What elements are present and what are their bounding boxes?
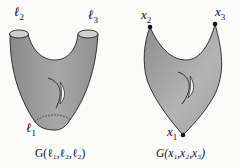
label-x1: x1 xyxy=(167,125,177,142)
label-l2: ℓ2 xyxy=(14,5,24,22)
boundary-l3-opening xyxy=(78,30,98,38)
vertex-x1 xyxy=(181,133,186,138)
label-l3: ℓ3 xyxy=(88,8,98,25)
vertex-x2 xyxy=(148,25,153,30)
pants-surface xyxy=(10,30,99,130)
label-x2: x2 xyxy=(141,8,151,25)
caption-triangle: G(x₁,x₂,x₃) xyxy=(156,147,205,159)
figure-canvas xyxy=(0,0,239,168)
caption-pants: G(ℓ₁,ℓ₂,ℓ₂) xyxy=(35,147,85,159)
boundary-l2-opening xyxy=(10,30,29,38)
label-l1: ℓ1 xyxy=(26,121,36,138)
vertex-x3 xyxy=(213,22,218,27)
triangle-surface xyxy=(144,22,222,138)
label-x3: x3 xyxy=(215,5,225,22)
